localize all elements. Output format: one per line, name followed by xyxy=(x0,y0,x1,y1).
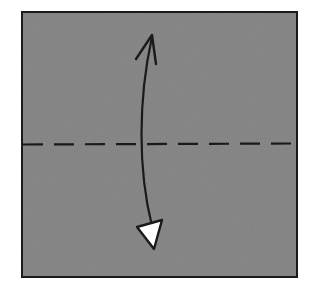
valley-fold-line xyxy=(23,144,296,145)
origami-diagram: Valley fold in half: fold bottom edge up… xyxy=(0,0,320,300)
